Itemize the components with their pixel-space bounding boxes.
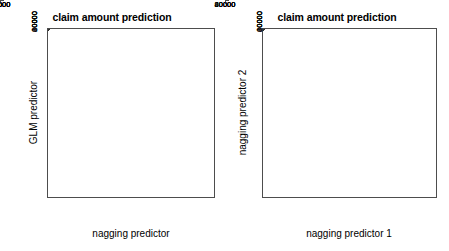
scatter-right-svg	[263, 29, 436, 197]
y-tick-label: 80000	[255, 5, 264, 39]
panel-right: claim amount prediction 2000040000600008…	[225, 0, 449, 251]
panel-left: claim amount prediction 0200004000060000…	[0, 0, 224, 251]
axis-title-y-left: GLM predictor	[28, 53, 39, 173]
y-tick-mark	[225, 0, 229, 1]
plot-area-right	[262, 28, 437, 198]
axis-title-y-right: nagging predictor 2	[237, 53, 248, 173]
plot-area-left	[47, 28, 215, 198]
scatter-points	[48, 29, 49, 30]
x-tick-label: 80000	[215, 0, 236, 9]
y-tick-label: 80000	[30, 5, 39, 39]
axis-title-x-left: nagging predictor	[92, 228, 169, 239]
y-tick-mark	[0, 0, 4, 1]
x-tick-label: 80000	[0, 0, 10, 9]
scatter-left-svg	[48, 29, 214, 197]
axis-title-x-right: nagging predictor 1	[306, 228, 392, 239]
figure-container: claim amount prediction 0200004000060000…	[0, 0, 449, 251]
